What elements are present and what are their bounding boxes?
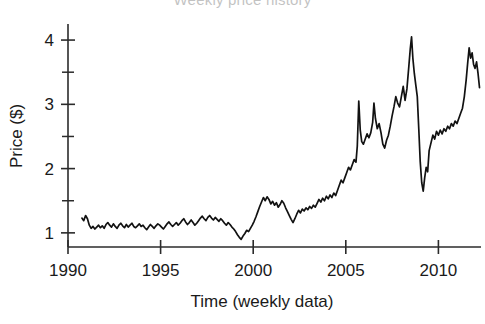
- y-tick-label-3: 3: [45, 95, 54, 114]
- y-tick-label-1: 1: [45, 224, 54, 243]
- chart-figure: Weekly price history 1234 19901995200020…: [0, 0, 485, 324]
- chart-plot-area: 1234 19901995200020052010 Price ($) Time…: [0, 0, 485, 324]
- x-axis-title: Time (weekly data): [191, 292, 334, 311]
- x-tick-label-2000: 2000: [234, 261, 272, 280]
- y-axis-title: Price ($): [7, 104, 26, 168]
- series-group: [82, 37, 480, 239]
- y-tick-label-2: 2: [45, 160, 54, 179]
- x-tick-label-1990: 1990: [49, 261, 87, 280]
- x-tick-labels: 19901995200020052010: [49, 261, 457, 280]
- x-tick-label-1995: 1995: [142, 261, 180, 280]
- y-tick-labels: 1234: [45, 31, 54, 243]
- y-tick-label-4: 4: [45, 31, 54, 50]
- price-series-line: [82, 37, 480, 239]
- x-tick-label-2010: 2010: [419, 261, 457, 280]
- x-tick-label-2005: 2005: [327, 261, 365, 280]
